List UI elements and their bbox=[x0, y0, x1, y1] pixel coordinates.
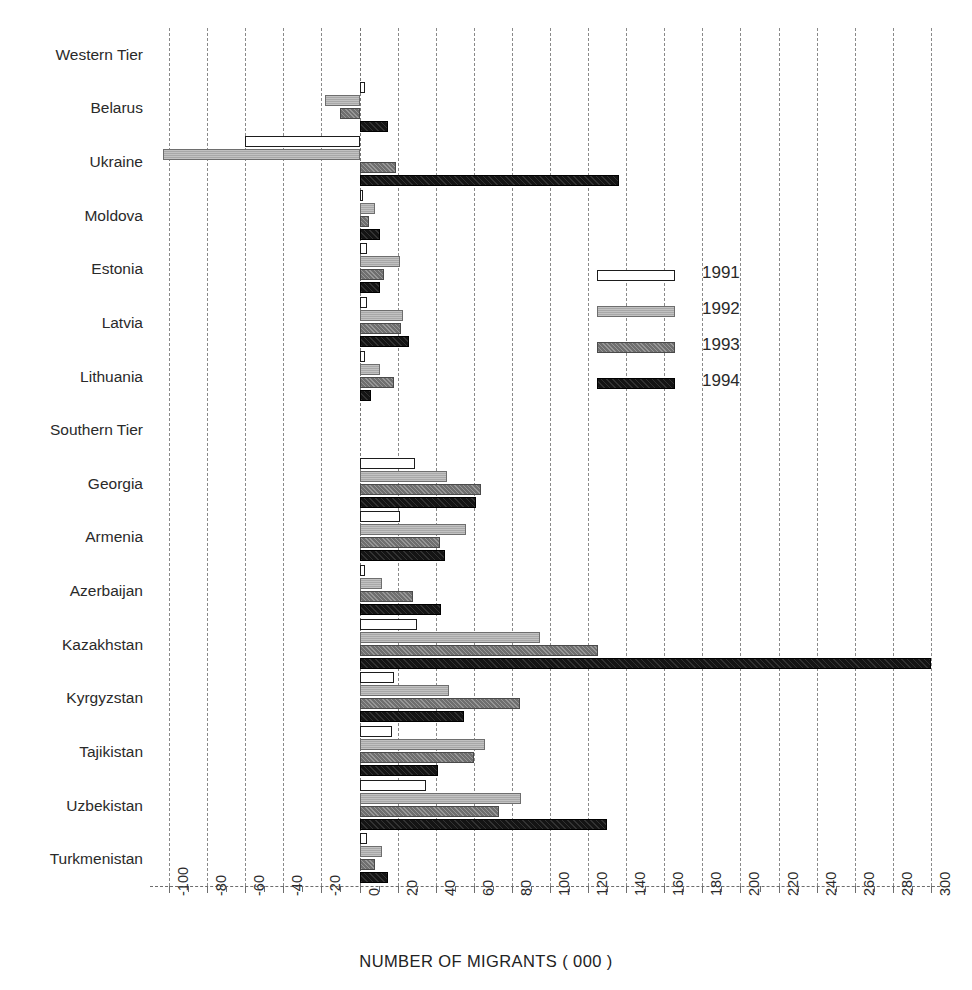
bar-kazakhstan-1992 bbox=[360, 632, 541, 643]
x-tick-label-180: 180 bbox=[708, 872, 724, 896]
x-tick-300 bbox=[931, 886, 932, 893]
bar-lithuania-1993 bbox=[360, 377, 394, 388]
x-tick--80 bbox=[207, 886, 208, 893]
bar-lithuania-1991 bbox=[360, 351, 366, 362]
bar-uzbekistan-1992 bbox=[360, 793, 522, 804]
bar-estonia-1991 bbox=[360, 243, 368, 254]
bar-moldova-1992 bbox=[360, 203, 375, 214]
x-tick-220 bbox=[779, 886, 780, 893]
x-tick-120 bbox=[588, 886, 589, 893]
category-label-uzbekistan: Uzbekistan bbox=[3, 798, 143, 814]
x-tick-label-160: 160 bbox=[670, 872, 686, 896]
x-axis-tick-labels: -100-80-60-40-20020406080100120140160180… bbox=[150, 896, 950, 956]
x-tick-100 bbox=[550, 886, 551, 893]
x-tick-80 bbox=[512, 886, 513, 893]
bar-tajikistan-1991 bbox=[360, 726, 392, 737]
bar-georgia-1993 bbox=[360, 484, 482, 495]
bar-moldova-1993 bbox=[360, 216, 370, 227]
bar-lithuania-1994 bbox=[360, 390, 371, 401]
legend-item-1994[interactable]: 1994 bbox=[597, 370, 812, 406]
legend-item-1991[interactable]: 1991 bbox=[597, 262, 812, 298]
legend-label-1991: 1991 bbox=[702, 263, 740, 283]
bar-turkmenistan-1991 bbox=[360, 833, 368, 844]
migration-bar-chart: Western TierBelarusUkraineMoldovaEstonia… bbox=[0, 0, 972, 990]
bar-turkmenistan-1993 bbox=[360, 859, 375, 870]
bar-belarus-1994 bbox=[360, 121, 389, 132]
x-tick-260 bbox=[855, 886, 856, 893]
category-label-moldova: Moldova bbox=[3, 208, 143, 224]
x-tick-label-20: 20 bbox=[404, 880, 420, 896]
plot-area bbox=[150, 28, 950, 886]
category-label-tajikistan: Tajikistan bbox=[3, 744, 143, 760]
bar-armenia-1994 bbox=[360, 550, 446, 561]
x-tick-240 bbox=[817, 886, 818, 893]
bar-azerbaijan-1991 bbox=[360, 565, 366, 576]
bar-latvia-1994 bbox=[360, 336, 410, 347]
bar-group-georgia bbox=[150, 457, 950, 511]
bar-kazakhstan-1994 bbox=[360, 658, 931, 669]
x-tick-label-300: 300 bbox=[937, 872, 953, 896]
category-label-latvia: Latvia bbox=[3, 315, 143, 331]
x-tick-label-0: 0 bbox=[366, 888, 382, 896]
x-tick--100 bbox=[169, 886, 170, 893]
bar-armenia-1992 bbox=[360, 524, 467, 535]
x-tick-140 bbox=[626, 886, 627, 893]
category-label-kyrgyzstan: Kyrgyzstan bbox=[3, 690, 143, 706]
bar-uzbekistan-1993 bbox=[360, 806, 499, 817]
x-axis-title: NUMBER OF MIGRANTS ( 000 ) bbox=[0, 952, 972, 971]
x-tick-180 bbox=[702, 886, 703, 893]
legend: 1991199219931994 bbox=[597, 262, 812, 406]
bar-group-azerbaijan bbox=[150, 564, 950, 618]
bar-estonia-1993 bbox=[360, 269, 385, 280]
bar-uzbekistan-1994 bbox=[360, 819, 608, 830]
legend-item-1993[interactable]: 1993 bbox=[597, 334, 812, 370]
x-tick-60 bbox=[474, 886, 475, 893]
bar-lithuania-1992 bbox=[360, 364, 381, 375]
bar-kyrgyzstan-1993 bbox=[360, 698, 520, 709]
bar-kazakhstan-1993 bbox=[360, 645, 598, 656]
category-label-azerbaijan: Azerbaijan bbox=[3, 583, 143, 599]
bar-georgia-1992 bbox=[360, 471, 448, 482]
bar-group-kyrgyzstan bbox=[150, 672, 950, 726]
bar-moldova-1991 bbox=[360, 190, 364, 201]
bar-group-ukraine bbox=[150, 135, 950, 189]
bar-uzbekistan-1991 bbox=[360, 780, 427, 791]
bar-estonia-1992 bbox=[360, 256, 400, 267]
x-tick-label--100: -100 bbox=[175, 867, 191, 896]
bar-kyrgyzstan-1994 bbox=[360, 711, 465, 722]
bar-azerbaijan-1994 bbox=[360, 604, 442, 615]
legend-swatch-1991 bbox=[597, 270, 675, 281]
x-tick-280 bbox=[893, 886, 894, 893]
bar-estonia-1994 bbox=[360, 282, 381, 293]
bar-tajikistan-1993 bbox=[360, 752, 474, 763]
bar-belarus-1991 bbox=[360, 82, 366, 93]
x-tick-label--40: -40 bbox=[289, 875, 305, 896]
bar-kyrgyzstan-1992 bbox=[360, 685, 450, 696]
category-axis-labels: Western TierBelarusUkraineMoldovaEstonia… bbox=[0, 28, 143, 886]
x-tick--20 bbox=[321, 886, 322, 893]
bar-group-latvia bbox=[150, 296, 950, 350]
legend-item-1992[interactable]: 1992 bbox=[597, 298, 812, 334]
bar-belarus-1993 bbox=[340, 108, 359, 119]
bar-group-kazakhstan bbox=[150, 618, 950, 672]
bar-latvia-1991 bbox=[360, 297, 368, 308]
x-tick-label-140: 140 bbox=[632, 872, 648, 896]
bar-latvia-1993 bbox=[360, 323, 402, 334]
x-tick-40 bbox=[436, 886, 437, 893]
bar-tajikistan-1994 bbox=[360, 765, 438, 776]
category-label-southern-tier: Southern Tier bbox=[3, 422, 143, 438]
category-label-estonia: Estonia bbox=[3, 261, 143, 277]
bar-azerbaijan-1993 bbox=[360, 591, 413, 602]
bar-kyrgyzstan-1991 bbox=[360, 672, 394, 683]
bar-georgia-1994 bbox=[360, 497, 476, 508]
x-tick-20 bbox=[398, 886, 399, 893]
bar-ukraine-1992 bbox=[163, 149, 359, 160]
category-label-western-tier: Western Tier bbox=[3, 47, 143, 63]
bar-latvia-1992 bbox=[360, 310, 404, 321]
bar-turkmenistan-1992 bbox=[360, 846, 383, 857]
x-tick-label-120: 120 bbox=[594, 872, 610, 896]
x-tick-label-80: 80 bbox=[518, 880, 534, 896]
x-tick-label--80: -80 bbox=[213, 875, 229, 896]
category-label-lithuania: Lithuania bbox=[3, 369, 143, 385]
x-tick--40 bbox=[283, 886, 284, 893]
